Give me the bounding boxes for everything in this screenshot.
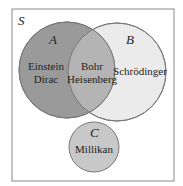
set-c-label: C	[90, 125, 99, 140]
member-dirac: Dirac	[34, 73, 59, 85]
member-schrodinger: Schrödinger	[113, 65, 167, 77]
set-a-label: A	[48, 32, 57, 47]
member-bohr: Bohr	[81, 60, 103, 72]
member-einstein: Einstein	[28, 60, 65, 72]
member-millikan: Millikan	[75, 143, 113, 155]
set-b-label: B	[126, 32, 134, 47]
universe-label: S	[18, 13, 25, 28]
member-heisenberg: Heisenberg	[67, 73, 117, 85]
venn-diagram: S A B C Einstein Dirac Bohr Heisenberg S…	[0, 0, 183, 186]
